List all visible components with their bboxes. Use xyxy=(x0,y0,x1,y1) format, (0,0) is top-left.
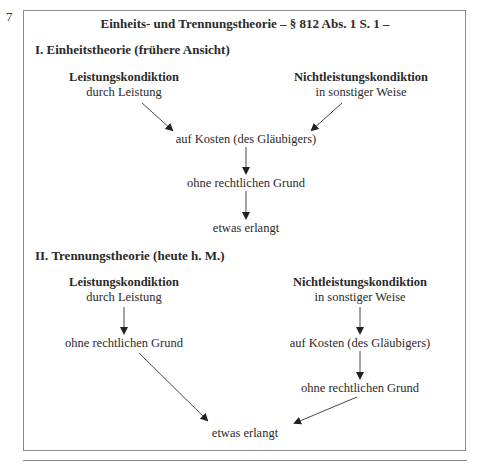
arrow-s1-left-to-aufkosten xyxy=(142,103,172,130)
arrow-s1-right-to-aufkosten xyxy=(312,103,342,130)
arrow-s2-left-ohnegrund-to-erlangt xyxy=(139,353,207,420)
arrows-layer xyxy=(0,0,479,465)
arrow-s2-right-ohnegrund-to-erlangt xyxy=(295,397,357,423)
